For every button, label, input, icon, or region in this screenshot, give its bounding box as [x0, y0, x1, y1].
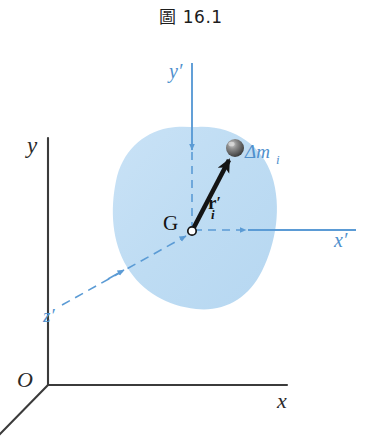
- global-x-axis-label: x: [276, 388, 287, 413]
- global-y-axis-label: y: [25, 133, 38, 158]
- centroidal-y-axis-label-text: y′: [167, 60, 183, 83]
- centroidal-z-axis-tick: [108, 270, 124, 279]
- mass-element-sphere: [226, 139, 244, 157]
- centroidal-x-axis-label-text: x′: [333, 229, 348, 251]
- centroid-marker: [188, 227, 196, 235]
- mass-element-label-delta: Δ: [244, 141, 256, 162]
- mass-element-label-base: m: [256, 141, 270, 162]
- centroidal-x-axis-label: x′: [333, 229, 348, 251]
- position-vector-label-subscript: i: [211, 207, 215, 222]
- mass-element-label-subscript: i: [276, 152, 280, 167]
- centroidal-z-axis-label-text: z′: [42, 305, 55, 326]
- centroid-label: G: [163, 211, 178, 235]
- centroidal-z-axis-label: z′: [42, 305, 55, 326]
- svg-text:Δm: Δm: [244, 141, 270, 162]
- global-z-axis: [0, 385, 48, 440]
- centroidal-y-axis-label: y′: [167, 60, 183, 83]
- global-origin-label: O: [17, 367, 33, 392]
- figure-container: 圖 16.1: [0, 0, 382, 447]
- position-vector-label-prime: ′: [216, 194, 221, 211]
- physics-diagram: y x O G y′ x′ z′ r′ i Δm: [0, 0, 382, 447]
